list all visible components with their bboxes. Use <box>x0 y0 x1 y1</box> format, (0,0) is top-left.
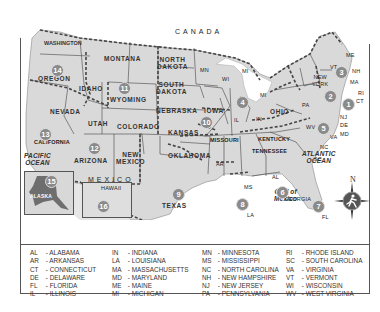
state-label-il: IL <box>234 117 239 124</box>
region-badge-15: 15 <box>45 175 58 188</box>
state-label-ar: AR <box>216 161 224 168</box>
compass-icon <box>334 182 370 220</box>
state-label-tennessee: TENNESSEE <box>252 148 287 155</box>
region-badge-7: 7 <box>312 200 325 213</box>
state-label-new-york: NEW YORK <box>312 74 328 88</box>
state-label-kansas: KANSAS <box>168 129 199 136</box>
legend-item: SC - SOUTH CAROLINA <box>286 257 363 265</box>
state-label-montana: MONTANA <box>104 55 141 62</box>
legend-item: FL - FLORIDA <box>30 282 96 290</box>
state-label-idaho: IDAHO <box>79 85 103 92</box>
region-badge-4: 4 <box>236 96 249 109</box>
state-label-ohio: OHIO <box>270 108 289 115</box>
region-badge-3: 3 <box>335 66 348 79</box>
state-label-mn: MN <box>200 67 209 74</box>
state-label-md: MD <box>340 131 349 138</box>
legend-item: MN - MINNESOTA <box>202 249 279 257</box>
state-label-new-mexico: NEW MEXICO <box>116 151 145 165</box>
us-regions-map: CANADA MEXICO PACIFIC OCEAN ATLANTIC OCE… <box>20 24 370 220</box>
region-badge-6: 6 <box>276 186 289 199</box>
region-badge-16: 16 <box>97 200 110 213</box>
state-label-me: ME <box>346 52 355 59</box>
legend-item: DE - DELAWARE <box>30 274 96 282</box>
state-label-ri: RI <box>358 90 364 97</box>
legend-item: VA - VIRGINIA <box>286 266 363 274</box>
state-label-nj: NJ <box>340 114 347 121</box>
state-label-mi-lower: MI <box>260 92 267 99</box>
state-label-nc: NC <box>320 144 328 151</box>
legend-item: MA - MASSACHUSETTS <box>112 266 189 274</box>
legend-column-2: IN - INDIANA LA - LOUISIANA MA - MASSACH… <box>112 249 189 299</box>
legend-item: AR - ARKANSAS <box>30 257 96 265</box>
legend-column-4: RI - RHODE ISLAND SC - SOUTH CAROLINA VA… <box>286 249 363 299</box>
state-label-alaska: ALASKA <box>30 193 52 200</box>
legend-item: ME - MAINE <box>112 282 189 290</box>
legend-item: MI - MICHIGAN <box>112 290 189 298</box>
state-label-california: CALIFORNIA <box>34 139 70 146</box>
state-label-ms: MS <box>244 184 253 191</box>
region-badge-8: 8 <box>236 198 249 211</box>
state-label-sc: SC <box>314 156 322 163</box>
region-badge-14: 14 <box>51 64 64 77</box>
state-label-arizona: ARIZONA <box>74 157 108 164</box>
state-label-pa: PA <box>302 102 309 109</box>
legend-item: NC - NORTH CAROLINA <box>202 266 279 274</box>
legend-item: CT - CONNECTICUT <box>30 266 96 274</box>
state-label-north-dakota: NORTH DAKOTA <box>157 56 188 70</box>
state-label-wi: WI <box>222 76 229 83</box>
state-label-georgia: GEORGIA <box>284 196 311 203</box>
legend-item: PA - PENNSYLVANIA <box>202 290 279 298</box>
canada-label: CANADA <box>175 28 222 35</box>
state-abbreviation-legend: AL - ALABAMA AR - ARKANSAS CT - CONNECTI… <box>22 246 368 304</box>
legend-item: AL - ALABAMA <box>30 249 96 257</box>
state-label-de: DE <box>340 122 348 129</box>
legend-column-3: MN - MINNESOTA MS - MISSISSIPPI NC - NOR… <box>202 249 279 299</box>
state-label-washington: WASHINGTON <box>44 40 82 47</box>
legend-item: NH - NEW HAMPSHIRE <box>202 274 279 282</box>
legend-item: NJ - NEW JERSEY <box>202 282 279 290</box>
state-label-la: LA <box>247 212 254 219</box>
state-label-va: VA <box>330 134 337 141</box>
state-label-wyoming: WYOMING <box>110 96 147 103</box>
compass-rose: N <box>338 176 374 220</box>
legend-divider <box>20 244 370 245</box>
region-badge-1: 1 <box>342 98 355 111</box>
region-badge-10: 10 <box>200 116 213 129</box>
state-label-texas: TEXAS <box>162 202 187 209</box>
state-label-mi-upper: MI <box>242 68 249 75</box>
region-badge-12: 12 <box>88 142 101 155</box>
state-label-utah: UTAH <box>88 120 108 127</box>
legend-item: MD - MARYLAND <box>112 274 189 282</box>
region-badge-9: 9 <box>172 188 185 201</box>
state-label-hawaii: HAWAII <box>101 185 121 192</box>
legend-item: LA - LOUISIANA <box>112 257 189 265</box>
legend-item: WV - WEST VIRGINIA <box>286 290 363 298</box>
state-label-iowa: IOWA <box>204 107 224 114</box>
legend-item: IL - ILLINOIS <box>30 290 96 298</box>
state-label-oklahoma: OKLAHOMA <box>168 152 211 159</box>
state-label-ma: MA <box>350 79 359 86</box>
state-label-ct: CT <box>356 98 364 105</box>
legend-item: VT - VERMONT <box>286 274 363 282</box>
state-label-south-dakota: SOUTH DAKOTA <box>156 81 187 95</box>
pacific-ocean-label: PACIFIC OCEAN <box>24 152 51 166</box>
region-badge-2: 2 <box>324 90 337 103</box>
legend-item: RI - RHODE ISLAND <box>286 249 363 257</box>
legend-item: WI - WISCONSIN <box>286 282 363 290</box>
mexico-label: MEXICO <box>88 176 134 183</box>
region-badge-5: 5 <box>317 122 330 135</box>
state-label-nebraska: NEBRASKA <box>156 107 198 114</box>
region-badge-13: 13 <box>39 128 52 141</box>
legend-item: MS - MISSISSIPPI <box>202 257 279 265</box>
state-label-wv: WV <box>306 124 315 131</box>
state-label-missouri: MISSOURI <box>210 137 239 144</box>
legend-item: IN - INDIANA <box>112 249 189 257</box>
state-label-kentucky: KENTUCKY <box>258 136 290 143</box>
state-label-nh: NH <box>352 68 360 75</box>
region-badge-11: 11 <box>118 82 131 95</box>
legend-column-1: AL - ALABAMA AR - ARKANSAS CT - CONNECTI… <box>30 249 96 299</box>
state-label-colorado: COLORADO <box>117 123 160 130</box>
state-label-nevada: NEVADA <box>50 108 81 115</box>
state-label-fl: FL <box>322 214 329 221</box>
state-label-in: IN <box>256 116 262 123</box>
